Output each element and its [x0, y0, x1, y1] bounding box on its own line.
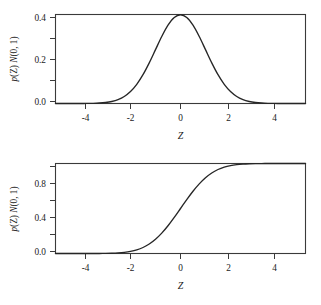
pdf-yticklabel-0: 0.0: [34, 97, 46, 107]
cdf-xticklabel-3: 2: [226, 263, 231, 273]
pdf-xaxis-title: Z: [178, 130, 184, 141]
cdf-xticklabel-0: -4: [82, 263, 90, 273]
cdf-yticklabel-2: 0.8: [34, 179, 46, 189]
cdf-yaxis-title: p(Z) N(0, 1): [9, 186, 20, 232]
pdf-xticklabel-2: 0: [178, 113, 183, 123]
cdf-yaxis-title-args: (0, 1): [9, 186, 20, 206]
chart-panel-cdf: 0.8 0.4 0.0 -4 -2 0 2 4 Z p(Z) N(0, 1): [0, 152, 321, 305]
pdf-xticklabel-3: 2: [226, 113, 231, 123]
cdf-xticklabel-4: 4: [272, 263, 277, 273]
pdf-yaxis-title-args: (0, 1): [9, 36, 20, 56]
cdf-yticklabel-0: 0.0: [34, 247, 46, 257]
svg-text:p(Z) N(0, 1): p(Z) N(0, 1): [9, 186, 20, 232]
pdf-xticklabel-0: -4: [82, 113, 90, 123]
cdf-yticklabel-1: 0.4: [34, 213, 46, 223]
pdf-yaxis-title: p(Z) N(0, 1): [9, 36, 20, 82]
svg-text:p(Z) N(0, 1): p(Z) N(0, 1): [9, 36, 20, 82]
cdf-xaxis-title: Z: [178, 280, 184, 291]
pdf-plot-frame: [56, 15, 306, 104]
figure-standard-normal-pdf-cdf: 0.4 0.2 0.0 -4 -2 0 2 4 Z p(Z) N(0, 1): [0, 0, 321, 305]
cdf-plot-svg: 0.8 0.4 0.0 -4 -2 0 2 4 Z p(Z) N(0, 1): [0, 152, 321, 305]
cdf-cumulative-curve: [56, 164, 306, 254]
pdf-yaxis-title-parenz: (Z): [9, 65, 20, 77]
pdf-plot-svg: 0.4 0.2 0.0 -4 -2 0 2 4 Z p(Z) N(0, 1): [0, 0, 321, 152]
cdf-xticklabel-2: 0: [178, 263, 183, 273]
pdf-yticklabel-2: 0.4: [34, 13, 46, 23]
cdf-xticklabel-1: -2: [127, 263, 135, 273]
pdf-xticklabel-1: -2: [127, 113, 135, 123]
chart-panel-pdf: 0.4 0.2 0.0 -4 -2 0 2 4 Z p(Z) N(0, 1): [0, 0, 321, 152]
pdf-density-curve: [56, 15, 306, 104]
pdf-xticklabel-4: 4: [272, 113, 277, 123]
cdf-yaxis-title-parenz: (Z): [9, 215, 20, 227]
pdf-yticklabel-1: 0.2: [34, 55, 46, 65]
